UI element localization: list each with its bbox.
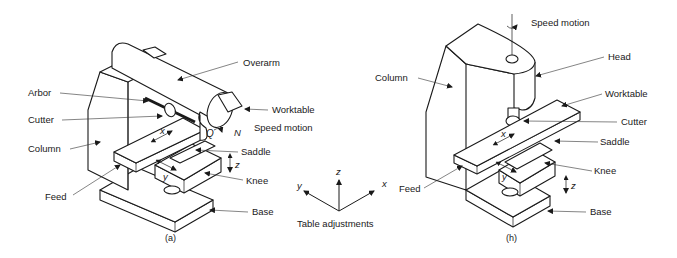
label-speed-motion-h: Speed motion <box>531 17 590 28</box>
label-head: Head <box>608 51 631 62</box>
label-knee-h: Knee <box>594 165 616 176</box>
axis-y: y <box>296 180 303 191</box>
horizontal-milling-machine: Q N x y z Overarm Arbor Cutter Worktable… <box>28 43 315 243</box>
label-z-h: z <box>570 180 576 191</box>
vertical-milling-machine: x y z Speed motion Head Column Worktable… <box>375 14 648 243</box>
label-worktable-h: Worktable <box>605 88 648 99</box>
label-n: N <box>234 127 241 138</box>
axis-z: z <box>335 166 341 177</box>
table-adjustments-axes: z y x Table adjustments <box>296 166 388 229</box>
svg-text:Q: Q <box>206 128 214 139</box>
label-cutter: Cutter <box>28 114 54 125</box>
label-overarm: Overarm <box>243 57 280 68</box>
label-knee-a: Knee <box>246 175 268 186</box>
label-saddle-h: Saddle <box>600 136 630 147</box>
label-arbor: Arbor <box>28 87 51 98</box>
label-speed-motion-a: Speed motion <box>254 122 313 133</box>
label-cutter-h: Cutter <box>621 116 647 127</box>
label-base-a: Base <box>252 206 274 217</box>
axis-x: x <box>381 178 388 189</box>
label-base-h: Base <box>590 206 612 217</box>
milling-machines-diagram: Q N x y z Overarm Arbor Cutter Worktable… <box>0 0 677 258</box>
label-worktable-a: Worktable <box>272 104 315 115</box>
label-column-a: Column <box>28 143 61 154</box>
caption-h: (h) <box>506 233 517 243</box>
column-shape-h <box>426 46 466 190</box>
column-shape <box>88 72 128 190</box>
table-adjustments-caption: Table adjustments <box>297 218 374 229</box>
label-column-h: Column <box>375 72 408 83</box>
label-saddle-a: Saddle <box>241 146 271 157</box>
caption-a: (a) <box>165 233 176 243</box>
label-z-a: z <box>234 159 240 170</box>
label-feed-a: Feed <box>45 191 67 202</box>
label-feed-h: Feed <box>399 183 421 194</box>
cutter-shape <box>163 102 178 119</box>
